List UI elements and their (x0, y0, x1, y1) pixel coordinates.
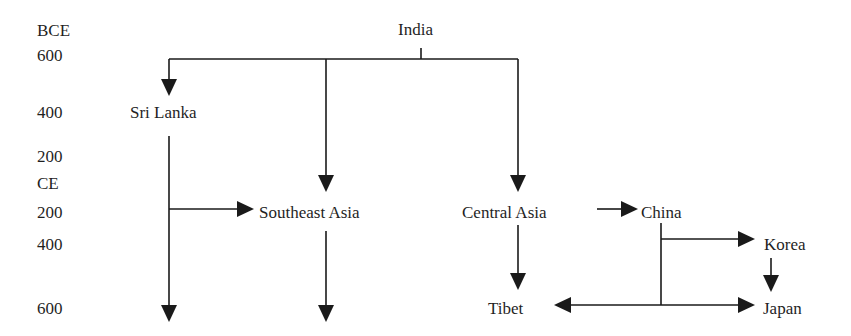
buddhism-spread-diagram: BCE 600 400 200 CE 200 400 600 India Sri… (0, 0, 851, 336)
arrow-southeast-asia-600ce (318, 305, 334, 322)
arrow-china-to-tibet (554, 297, 571, 313)
arrow-korea-to-japan (763, 275, 779, 292)
arrow-to-southeast-asia (318, 175, 334, 192)
arrow-to-tibet-from-central-asia (510, 273, 526, 290)
arrow-china-to-korea (738, 231, 755, 247)
arrow-sri-lanka-600ce (161, 305, 177, 322)
arrow-central-asia-to-china (621, 201, 638, 217)
arrow-china-to-japan (738, 297, 755, 313)
arrow-to-central-asia (510, 175, 526, 192)
connector-lines (0, 0, 851, 336)
arrow-sri-lanka-to-southeast-asia (237, 201, 254, 217)
arrow-to-sri-lanka (161, 79, 177, 96)
